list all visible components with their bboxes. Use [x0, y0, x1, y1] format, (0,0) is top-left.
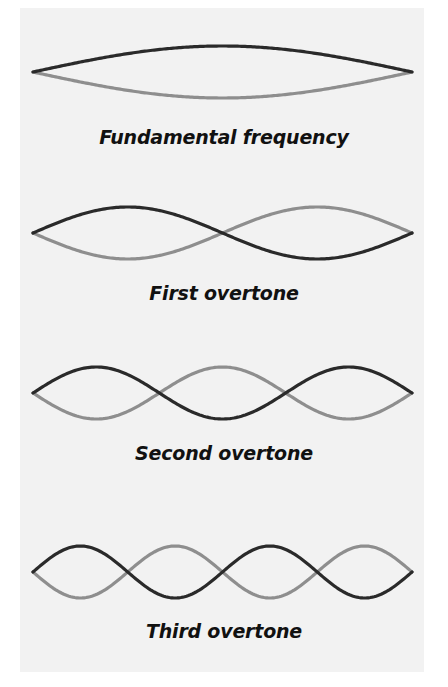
mode-third-overtone — [33, 546, 412, 598]
mode-second-overtone — [33, 367, 412, 419]
dark-wave-line — [33, 46, 412, 72]
label-third-overtone: Third overtone — [0, 620, 448, 642]
light-wave-line — [33, 72, 412, 98]
label-first-overtone: First overtone — [0, 282, 448, 304]
dark-wave-line — [33, 367, 412, 419]
mode-fundamental — [33, 46, 412, 98]
label-fundamental-frequency: Fundamental frequency — [0, 126, 448, 148]
label-second-overtone: Second overtone — [0, 442, 448, 464]
standing-waves-diagram — [0, 0, 448, 687]
dark-wave-line — [33, 207, 412, 259]
light-wave-line — [33, 367, 412, 419]
dark-wave-line — [33, 546, 412, 598]
mode-first-overtone — [33, 207, 412, 259]
